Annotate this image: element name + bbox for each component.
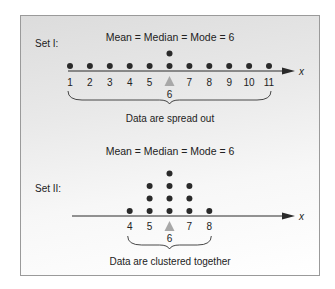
balance-point-triangle-icon [165,76,175,86]
dot-plot-figure: Mean = Median = Mode = 6Set I:x123457891… [0,0,335,289]
tick-label: 4 [127,221,133,232]
tick-label: 5 [147,221,153,232]
tick-label: 7 [187,221,193,232]
data-dot [206,208,212,214]
data-dot [226,63,232,69]
data-dot [167,51,173,57]
axis-arrow-icon [282,68,295,75]
tick-label: 5 [147,77,153,88]
tick-label: 8 [207,221,213,232]
data-dot [186,183,192,189]
set-label: Set I: [35,38,58,49]
tick-label: 2 [87,77,93,88]
data-dot [67,63,73,69]
center-value-label: 6 [167,89,173,100]
tick-label: 8 [207,77,213,88]
data-dot [186,196,192,202]
x-axis-label: x [298,66,305,77]
data-dot [147,63,153,69]
tick-label: 9 [226,77,232,88]
spread-annotation: Data are clustered together [109,256,231,267]
data-dot [147,183,153,189]
data-dot [167,63,173,69]
tick-label: 7 [187,77,193,88]
axis-arrow-icon [282,213,295,220]
x-axis-label: x [298,211,305,222]
chart-title: Mean = Median = Mode = 6 [106,31,235,43]
data-dot [167,196,173,202]
data-dot [127,63,133,69]
set-label: Set II: [35,183,61,194]
tick-label: 11 [264,77,275,88]
chart-title: Mean = Median = Mode = 6 [106,145,235,157]
data-dot [127,208,133,214]
data-dot [147,208,153,214]
data-dot [266,63,272,69]
data-dot [167,171,173,177]
tick-label: 10 [244,77,256,88]
data-dot [87,63,93,69]
data-dot [167,183,173,189]
data-dot [186,208,192,214]
tick-label: 4 [127,77,133,88]
balance-point-triangle-icon [165,221,175,231]
data-dot [186,63,192,69]
data-dot [206,63,212,69]
tick-label: 1 [67,77,73,88]
data-dot [167,208,173,214]
data-dot [107,63,113,69]
center-value-label: 6 [167,233,173,244]
tick-label: 3 [107,77,113,88]
data-dot [147,196,153,202]
spread-annotation: Data are spread out [126,113,215,124]
data-dot [246,63,252,69]
